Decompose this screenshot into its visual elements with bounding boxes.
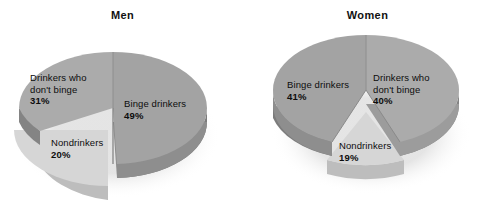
pie-label-women-drinkers-no-binge: Drinkers who don't binge 40% xyxy=(373,72,430,107)
pie-label-men-binge-drinkers: Binge drinkers 49% xyxy=(124,98,186,121)
pie-women: Binge drinkers 41% Drinkers who don't bi… xyxy=(245,0,490,211)
pie-label-women-nondrinkers: Nondrinkers 19% xyxy=(339,140,391,163)
label-line-1: Binge drinkers xyxy=(287,79,349,91)
label-line-1: Drinkers who xyxy=(373,72,430,84)
pie-label-women-binge-drinkers: Binge drinkers 41% xyxy=(287,79,349,102)
label-line-1: Nondrinkers xyxy=(51,137,103,149)
pie-men: Drinkers who don't binge 31% Binge drink… xyxy=(0,0,245,211)
label-percent: 20% xyxy=(51,149,103,161)
label-line-2: don't binge xyxy=(373,84,430,96)
label-percent: 49% xyxy=(124,110,186,122)
chart-panel-men: Men xyxy=(0,0,245,211)
pie-women-svg xyxy=(245,0,490,211)
label-percent: 41% xyxy=(287,91,349,103)
chart-panel-women: Women xyxy=(245,0,490,211)
pie-label-men-drinkers-no-binge: Drinkers who don't binge 31% xyxy=(30,72,87,107)
label-line-2: don't binge xyxy=(30,84,87,96)
label-line-1: Binge drinkers xyxy=(124,98,186,110)
pie-label-men-nondrinkers: Nondrinkers 20% xyxy=(51,137,103,160)
label-percent: 19% xyxy=(339,152,391,164)
label-percent: 31% xyxy=(30,95,87,107)
label-percent: 40% xyxy=(373,95,430,107)
label-line-1: Drinkers who xyxy=(30,72,87,84)
pie-chart-figure: Men xyxy=(0,0,490,211)
label-line-1: Nondrinkers xyxy=(339,140,391,152)
